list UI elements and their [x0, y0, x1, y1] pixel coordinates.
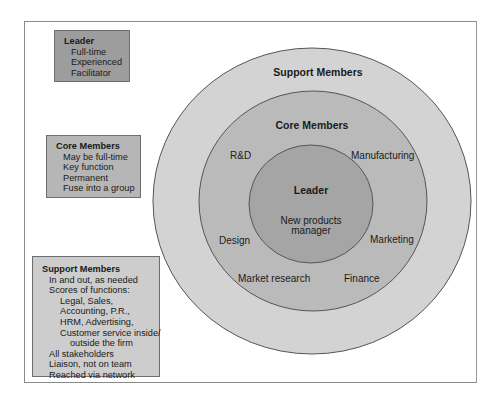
concentric-rings-diagram: Support Members Core Members R&D Manufac…	[0, 0, 500, 403]
leader-role-line2: manager	[291, 225, 331, 236]
function-label-market-research: Market research	[238, 273, 310, 284]
core-ring-title: Core Members	[276, 119, 349, 131]
support-ring-title: Support Members	[273, 66, 362, 78]
function-label-manufacturing: Manufacturing	[351, 150, 414, 161]
leader-ring	[249, 145, 373, 263]
function-label-marketing: Marketing	[370, 234, 414, 245]
function-label-finance: Finance	[344, 273, 380, 284]
leader-ring-title: Leader	[294, 184, 328, 196]
function-label-design: Design	[219, 235, 250, 246]
function-label-rnd: R&D	[230, 150, 251, 161]
